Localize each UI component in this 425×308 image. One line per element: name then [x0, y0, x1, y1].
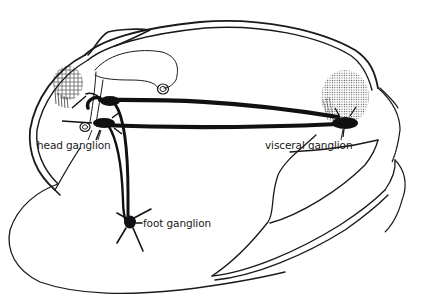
siphon-loop [80, 51, 177, 132]
foot-ganglion-mass [117, 209, 151, 251]
nerve-cords [86, 93, 338, 222]
visceral-ganglion-label: visceral ganglion [265, 139, 352, 151]
diagram-artwork [0, 0, 425, 308]
foot-ganglion-label: foot ganglion [143, 217, 211, 229]
clam-nervous-system-diagram: head ganglion visceral ganglion foot gan… [0, 0, 425, 308]
head-ganglion-label: head ganglion [37, 139, 111, 151]
